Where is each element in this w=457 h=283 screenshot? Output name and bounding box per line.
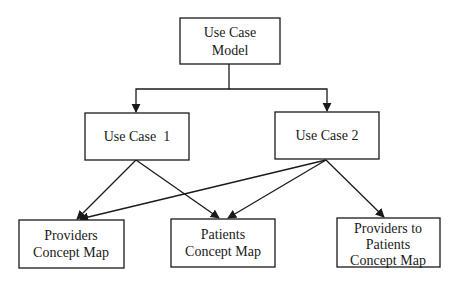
edge-uc2-to-patients — [228, 160, 326, 218]
node-label-line: Providers — [44, 228, 98, 243]
node-providers-to-patients-concept-map[interactable]: Providers to Patients Concept Map — [337, 218, 440, 268]
edge-uc1-to-providers — [77, 160, 136, 219]
node-patients-concept-map[interactable]: Patients Concept Map — [171, 219, 275, 267]
node-label-line: Use Case 1 — [104, 129, 171, 144]
node-use-case-model[interactable]: Use Case Model — [180, 18, 280, 64]
edge-uc2-to-p2p — [326, 160, 384, 217]
edge-model-to-uc2 — [229, 89, 327, 111]
node-label-line: Use Case 2 — [296, 128, 359, 143]
node-use-case-2[interactable]: Use Case 2 — [275, 112, 379, 159]
node-label-line: Concept Map — [350, 253, 426, 268]
node-label-line: Patients — [201, 227, 245, 242]
node-providers-concept-map[interactable]: Providers Concept Map — [19, 220, 124, 268]
edge-model-to-uc1 — [136, 64, 229, 112]
node-label-line: Patients — [366, 237, 410, 252]
node-label-line: Model — [212, 43, 249, 58]
node-label-line: Concept Map — [33, 245, 109, 260]
node-label-line: Use Case — [204, 25, 257, 40]
node-use-case-1[interactable]: Use Case 1 — [85, 113, 189, 160]
use-case-diagram: Use Case Model Use Case 1 Use Case 2 Pro… — [0, 0, 457, 283]
node-label-line: Providers to — [354, 221, 422, 236]
edge-uc2-to-providers — [80, 160, 326, 219]
node-label-line: Concept Map — [185, 244, 261, 259]
